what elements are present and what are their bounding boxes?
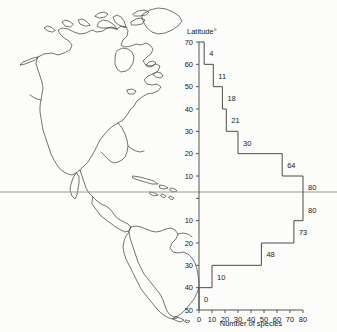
figure-panel: 706050403020101020304050 010203040506070… <box>0 0 337 332</box>
y-tick-label: 70 <box>185 38 193 47</box>
y-tick-label: 40 <box>185 105 193 114</box>
bar-value-label: 11 <box>218 72 226 81</box>
x-tick-label: 10 <box>208 315 216 324</box>
y-tick-label: 20 <box>185 239 193 248</box>
y-tick-label: 30 <box>185 261 193 270</box>
y-axis-title: Latitude° <box>187 27 217 36</box>
bar-value-label: 80 <box>308 206 316 215</box>
x-tick-label: 70 <box>286 315 294 324</box>
bar-value-label: 64 <box>287 161 295 170</box>
bar-value-label: 80 <box>308 183 316 192</box>
x-tick-label: 80 <box>299 315 307 324</box>
x-axis-title: Number of species <box>220 319 283 328</box>
bar-value-label: 4 <box>209 49 213 58</box>
x-tick-label: 0 <box>197 315 201 324</box>
y-tick-label: 30 <box>185 127 193 136</box>
bar-value-label: 0 <box>204 295 208 304</box>
bar-value-label: 30 <box>243 139 251 148</box>
y-tick-label: 10 <box>185 172 193 181</box>
y-tick-label: 40 <box>185 283 193 292</box>
y-tick-label: 20 <box>185 149 193 158</box>
bar-value-label: 21 <box>231 116 239 125</box>
y-tick-label: 50 <box>185 306 193 315</box>
y-tick-label: 60 <box>185 60 193 69</box>
bar-value-label: 18 <box>227 94 235 103</box>
figure-svg: 706050403020101020304050 010203040506070… <box>0 0 337 332</box>
histogram-outline <box>199 42 303 310</box>
y-tick-label: 50 <box>185 82 193 91</box>
bar-value-label: 10 <box>217 273 225 282</box>
y-tick-label: 10 <box>185 216 193 225</box>
americas-outline-map <box>20 8 199 323</box>
y-axis-ticks: 706050403020101020304050 <box>185 38 199 315</box>
bar-value-label: 73 <box>299 228 307 237</box>
histogram-steps <box>199 42 303 310</box>
bar-value-label: 48 <box>266 250 274 259</box>
